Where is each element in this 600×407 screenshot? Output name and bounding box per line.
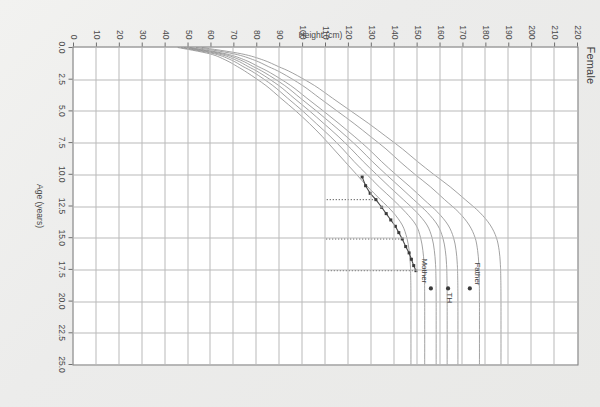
x-tick-label: 17.5 [56, 261, 66, 278]
y-tick-label: 30 [137, 0, 147, 39]
y-tick-label: 220 [572, 0, 582, 39]
growth-chart: Female Age (years) Height (cm) 0.02.55.0… [0, 0, 600, 407]
axis-decorations [0, 0, 600, 407]
y-tick-label: 0 [68, 0, 78, 39]
x-tick-label: 22.5 [56, 324, 66, 341]
y-tick-label: 50 [183, 0, 193, 39]
x-tick-label: 0.0 [56, 41, 66, 53]
y-tick-label: 40 [160, 0, 170, 39]
x-tick-label: 7.5 [56, 136, 66, 148]
y-tick-label: 80 [251, 0, 261, 39]
annotation-label-mother: Mother [419, 258, 428, 283]
y-tick-label: 160 [435, 0, 445, 39]
y-tick-label: 180 [480, 0, 490, 39]
x-tick-label: 5.0 [56, 104, 66, 116]
y-tick-label: 210 [549, 0, 559, 39]
y-tick-label: 150 [412, 0, 422, 39]
x-tick-label: 15.0 [56, 229, 66, 246]
y-tick-label: 20 [114, 0, 124, 39]
y-tick-label: 10 [91, 0, 101, 39]
x-tick-label: 20.0 [56, 292, 66, 309]
y-tick-label: 100 [297, 0, 307, 39]
x-tick-label: 2.5 [56, 73, 66, 85]
x-tick-label: 10.0 [56, 166, 66, 183]
y-tick-label: 70 [228, 0, 238, 39]
y-tick-label: 130 [366, 0, 376, 39]
rotated-chart-stage: Female Age (years) Height (cm) 0.02.55.0… [0, 0, 600, 407]
y-tick-label: 120 [343, 0, 353, 39]
y-tick-label: 60 [205, 0, 215, 39]
x-axis-title: Age (years) [34, 46, 44, 365]
x-tick-label: 12.5 [56, 197, 66, 214]
x-tick-label: 25.0 [56, 356, 66, 373]
y-tick-label: 90 [274, 0, 284, 39]
y-tick-label: 110 [320, 0, 330, 39]
annotation-label-th: TH [444, 292, 453, 303]
y-tick-label: 190 [503, 0, 513, 39]
annotation-label-father: Father [472, 262, 481, 285]
y-tick-label: 200 [526, 0, 536, 39]
y-tick-label: 170 [457, 0, 467, 39]
y-tick-label: 140 [389, 0, 399, 39]
